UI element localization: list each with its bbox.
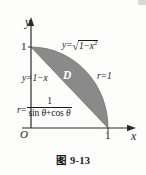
line-equation-label: y=1−x [22, 74, 48, 84]
radius-equation-label: r=1 [97, 72, 112, 82]
caption-prefix: 图 [56, 154, 66, 166]
polar-equation-lead: r= [17, 100, 27, 116]
caption-number: 9-13 [70, 155, 90, 166]
denominator-plus-cos: +cos [46, 108, 66, 118]
x-tick-label-1: 1 [105, 130, 110, 141]
radical-sign-icon: √ [72, 41, 78, 52]
denominator-sin: sin [28, 108, 41, 118]
figure-container: y x O 1 1 y=√1−x2 y=1−x r=1 D r=1sin θ+c… [0, 0, 146, 175]
circle-equation-lead: y= [62, 40, 72, 50]
fraction: 1sin θ+cos θ [27, 97, 71, 118]
fraction-denominator: sin θ+cos θ [27, 108, 71, 118]
origin-label: O [20, 129, 28, 140]
polar-equation-label: r=1sin θ+cos θ [17, 97, 72, 118]
circle-equation-label: y=√1−x2 [62, 40, 98, 51]
radicand: 1−x2 [78, 40, 98, 51]
region-label-d: D [63, 70, 71, 82]
radicand-text: 1−x [79, 41, 94, 51]
sqrt-symbol-icon: √1−x2 [72, 40, 98, 51]
x-axis-label: x [131, 130, 136, 142]
radicand-exponent: 2 [94, 38, 97, 45]
y-tick-label-1: 1 [21, 41, 26, 52]
figure-caption: 图 9-13 [0, 152, 146, 167]
fraction-numerator: 1 [45, 97, 54, 107]
denominator-theta-2: θ [66, 108, 71, 118]
y-axis-label: y [25, 16, 30, 28]
